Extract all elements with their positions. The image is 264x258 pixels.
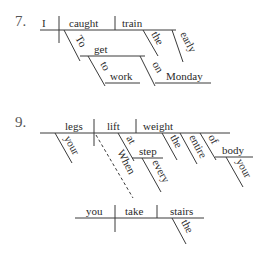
word-object: train	[122, 17, 143, 29]
word-verb: lift	[107, 120, 120, 132]
word-inf-verb: get	[94, 43, 107, 55]
diagram-7: 7. I caught train the early To get to wo…	[15, 13, 211, 86]
sentence-diagrams: 7. I caught train the early To get to wo…	[0, 0, 264, 258]
word-subject: I	[42, 17, 46, 29]
word-connector: When	[115, 147, 138, 176]
word-prep-2: on	[150, 59, 166, 75]
word-subject: legs	[65, 120, 83, 132]
word-inf-marker: To	[73, 33, 89, 49]
word-clause-object: stairs	[170, 205, 193, 217]
word-subject-mod: your	[62, 133, 82, 157]
word-obj-mod-1: the	[149, 29, 166, 47]
word-prep: of	[206, 132, 221, 146]
word-clause-verb: take	[125, 205, 143, 217]
word-obj-mod-2: entire	[187, 132, 209, 160]
diagram-9: 9. legs lift weight your When at step ev…	[15, 114, 254, 244]
word-obj-mod-2: early	[178, 29, 199, 54]
diagram-number: 9.	[15, 114, 26, 130]
word-verb-prep: at	[124, 133, 138, 146]
word-prep-obj: body	[222, 144, 245, 156]
word-prep-2-obj: Monday	[166, 70, 203, 82]
word-obj-mod-1: the	[168, 132, 185, 150]
prep-line	[140, 56, 155, 86]
word-verb-prep-obj: step	[139, 145, 157, 157]
diagram-number: 7.	[15, 13, 26, 29]
word-clause-subject: you	[86, 205, 103, 217]
word-prep-1-obj: work	[110, 70, 133, 82]
word-verb-prep-obj-mod: every	[150, 157, 172, 185]
word-verb: caught	[69, 17, 98, 29]
word-clause-obj-mod: the	[179, 217, 196, 235]
word-object: weight	[143, 120, 173, 132]
